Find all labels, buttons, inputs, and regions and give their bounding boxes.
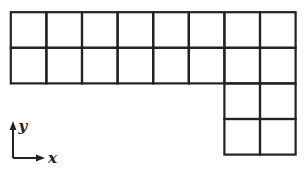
unit-square bbox=[224, 119, 260, 155]
unit-square bbox=[224, 48, 260, 84]
y-axis-label: y bbox=[18, 117, 29, 135]
unit-square bbox=[153, 48, 189, 84]
x-axis-label: x bbox=[47, 149, 58, 167]
unit-square bbox=[153, 12, 189, 48]
coordinate-axes: y x bbox=[10, 117, 58, 167]
unit-square bbox=[11, 48, 47, 84]
unit-square bbox=[118, 48, 154, 84]
unit-square bbox=[260, 48, 296, 84]
unit-square bbox=[118, 12, 154, 48]
y-axis-arrowhead-icon bbox=[10, 121, 17, 130]
unit-square bbox=[46, 48, 82, 84]
figure-canvas: y x bbox=[0, 0, 307, 171]
x-axis-arrowhead-icon bbox=[36, 155, 45, 162]
unit-square bbox=[224, 12, 260, 48]
unit-square bbox=[224, 83, 260, 119]
unit-square bbox=[82, 48, 118, 84]
grid-figure: y x bbox=[0, 0, 307, 171]
unit-square bbox=[82, 12, 118, 48]
unit-square bbox=[260, 119, 296, 155]
unit-square bbox=[11, 12, 47, 48]
unit-square-grid bbox=[11, 12, 296, 154]
unit-square bbox=[189, 48, 225, 84]
unit-square bbox=[260, 12, 296, 48]
unit-square bbox=[46, 12, 82, 48]
unit-square bbox=[189, 12, 225, 48]
unit-square bbox=[260, 83, 296, 119]
